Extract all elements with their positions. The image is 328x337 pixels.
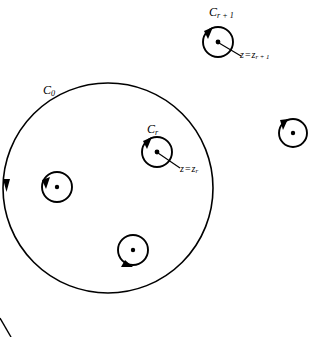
label-point-z-equals-zr-plus-1: z=zr + 1 [240, 50, 269, 61]
contour-outside-right-center-dot [291, 131, 295, 135]
contour-cr-arrowhead [143, 137, 152, 149]
label-cr-base: C [147, 122, 155, 136]
label-contour-cr-plus-1: Cr + 1 [209, 6, 234, 20]
contour-diagram: C0 Cr Cr + 1 z=zr z=zr + 1 [0, 0, 328, 337]
contour-cr-plus-1-leader-line [219, 43, 241, 56]
contour-cr-plus-1-arrowhead [204, 27, 213, 39]
contour-c0-arrowhead [3, 179, 10, 192]
label-c0-base: C [43, 83, 51, 97]
label-point-z-equals-zr: z=zr [180, 164, 198, 175]
contour-svg [0, 0, 328, 337]
contour-c0-circle [3, 83, 213, 293]
label-zrp1-rhs-subscript: r + 1 [255, 53, 269, 60]
contour-inner-bottom-center-dot [131, 248, 135, 252]
contour-inner-left-center-dot [55, 185, 59, 189]
label-cr-subscript: r [155, 128, 158, 137]
label-crp1-base: C [209, 5, 217, 19]
label-zrp1-equals: = [244, 49, 252, 60]
label-c0-subscript: 0 [51, 89, 55, 98]
label-zr-rhs-subscript: r [195, 167, 198, 174]
label-zr-equals: = [184, 163, 192, 174]
label-contour-c0: C0 [43, 84, 55, 98]
corner-mark [0, 318, 11, 337]
label-contour-cr: Cr [147, 123, 158, 137]
label-crp1-subscript: r + 1 [217, 11, 234, 20]
